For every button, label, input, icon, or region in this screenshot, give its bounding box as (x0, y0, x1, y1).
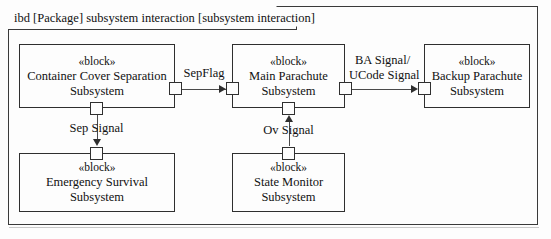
block-name-line1: State Monitor (254, 175, 323, 190)
port-backup-parachute-left[interactable] (418, 82, 431, 95)
block-name-line2: Subsystem (261, 190, 315, 205)
port-state-monitor-top[interactable] (282, 147, 295, 160)
connector-ba-ucode-line (351, 89, 411, 90)
block-name-line1: Container Cover Separation (27, 69, 167, 84)
block-name-line1: Emergency Survival (46, 175, 148, 190)
diagram-canvas: ibd [Package] subsystem interaction [sub… (0, 0, 551, 239)
block-main-parachute[interactable]: «block» Main Parachute Subsystem (232, 44, 345, 108)
diagram-header-label: ibd [Package] subsystem interaction [sub… (14, 10, 315, 26)
block-name-line1: Main Parachute (249, 69, 328, 84)
connector-ov-signal-label: Ov Signal (252, 123, 325, 138)
port-container-cover-right[interactable] (169, 82, 182, 95)
connector-ba-ucode-label-line1: BA Signal/ (349, 53, 416, 68)
block-emergency-survival[interactable]: «block» Emergency Survival Subsystem (19, 153, 175, 212)
block-backup-parachute[interactable]: «block» Backup Parachute Subsystem (424, 44, 530, 108)
port-container-cover-bottom[interactable] (90, 102, 103, 115)
block-name-line2: Subsystem (261, 84, 315, 99)
connector-sep-signal-arrowhead (93, 139, 101, 146)
connector-ba-ucode-label-line2: UCode Signal (349, 68, 416, 83)
connector-ov-signal-arrowhead (285, 115, 293, 122)
block-container-cover-separation[interactable]: «block» Container Cover Separation Subsy… (19, 44, 175, 108)
port-main-parachute-left[interactable] (226, 82, 239, 95)
block-name-line2: Subsystem (70, 84, 124, 99)
connector-sepflag-arrowhead (219, 85, 226, 93)
block-stereotype: «block» (270, 160, 307, 175)
connector-sepflag-label: SepFlag (181, 66, 227, 81)
port-main-parachute-right[interactable] (339, 82, 352, 95)
frame-shadow (9, 227, 539, 228)
port-emergency-survival-top[interactable] (90, 147, 103, 160)
connector-ba-ucode-arrowhead (411, 85, 418, 93)
connector-sep-signal-label: Sep Signal (58, 121, 135, 136)
block-stereotype: «block» (78, 160, 115, 175)
port-main-parachute-bottom[interactable] (282, 102, 295, 115)
block-name-line1: Backup Parachute (432, 69, 523, 84)
block-stereotype: «block» (270, 54, 307, 69)
block-stereotype: «block» (458, 54, 495, 69)
block-stereotype: «block» (78, 54, 115, 69)
block-name-line2: Subsystem (70, 190, 124, 205)
block-name-line2: Subsystem (450, 84, 504, 99)
block-state-monitor[interactable]: «block» State Monitor Subsystem (232, 153, 345, 212)
